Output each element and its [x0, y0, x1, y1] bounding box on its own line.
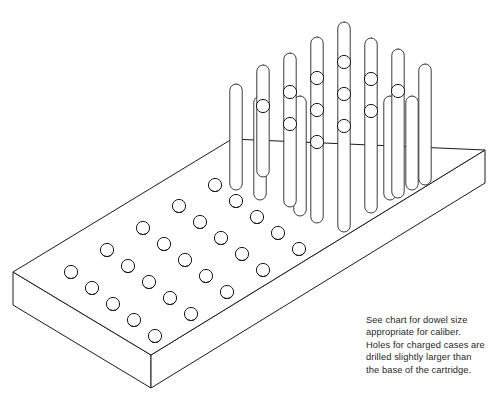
cartridge-case: [310, 103, 323, 116]
hole: [148, 329, 161, 342]
dowel-assembly: [310, 37, 323, 223]
dowel: [419, 64, 431, 185]
hole: [85, 281, 98, 294]
hole: [106, 297, 119, 310]
hole: [184, 307, 197, 320]
hole: [163, 291, 176, 304]
dowel-assembly: [230, 84, 242, 190]
cartridge-case: [364, 72, 377, 85]
hole: [127, 313, 140, 326]
hole: [100, 243, 113, 256]
hole: [271, 226, 284, 239]
dowel-assembly: [283, 53, 296, 207]
cartridge-case: [283, 85, 296, 98]
dowel-assembly: [364, 38, 377, 213]
cartridge-case: [310, 135, 323, 148]
hole: [235, 247, 248, 260]
hole: [142, 275, 155, 288]
dowel-assembly: [256, 65, 269, 177]
cartridge-case: [337, 87, 350, 100]
hole: [121, 259, 134, 272]
dowel: [392, 49, 404, 198]
cartridge-case: [391, 84, 404, 97]
hole: [250, 210, 263, 223]
hole: [199, 269, 212, 282]
hole: [64, 265, 77, 278]
technical-illustration: See chart for dowel size appropriate for…: [0, 0, 499, 403]
hole: [172, 199, 185, 212]
hole: [208, 178, 221, 191]
hole: [178, 253, 191, 266]
dowel: [365, 38, 377, 213]
dowel: [406, 96, 418, 190]
hole: [193, 215, 206, 228]
cartridge-case: [337, 55, 350, 68]
cartridge-case: [364, 104, 377, 117]
dowel: [257, 65, 269, 177]
hole: [220, 285, 233, 298]
hole: [214, 231, 227, 244]
cartridge-case: [256, 99, 269, 112]
hole: [136, 221, 149, 234]
cartridge-case: [283, 117, 296, 130]
hole: [229, 194, 242, 207]
hole: [256, 263, 269, 276]
dowel-assembly: [419, 64, 431, 185]
cartridge-case: [310, 71, 323, 84]
dowel-assembly: [337, 22, 350, 232]
dowel-assembly: [391, 49, 404, 198]
dowel: [311, 37, 323, 223]
dowel: [230, 84, 242, 190]
figure-caption: See chart for dowel size appropriate for…: [366, 314, 494, 376]
hole: [157, 237, 170, 250]
cartridge-case: [337, 119, 350, 132]
hole: [292, 242, 305, 255]
